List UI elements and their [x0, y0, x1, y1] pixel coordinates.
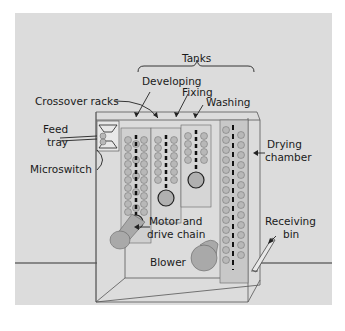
film-processor-diagram: Tanks Developing Fixing Washing Crossove… [0, 0, 345, 331]
label-receiving-2: bin [283, 228, 299, 240]
label-tanks: Tanks [181, 52, 211, 64]
label-drying-2: chamber [265, 151, 312, 163]
label-washing: Washing [206, 96, 251, 108]
label-feed-tray-2: tray [47, 136, 68, 148]
washing-tank [181, 125, 211, 207]
label-blower: Blower [150, 256, 187, 268]
label-drying-1: Drying [267, 138, 302, 150]
label-feed-tray-1: Feed [43, 123, 68, 135]
blower [191, 240, 218, 271]
label-microswitch: Microswitch [30, 163, 92, 175]
fixing-tank [151, 128, 181, 223]
label-crossover-racks: Crossover racks [35, 95, 119, 107]
label-receiving-1: Receiving [265, 215, 316, 227]
label-motor-2: drive chain [147, 228, 205, 240]
label-motor-1: Motor and [149, 215, 202, 227]
receiving-bin [251, 238, 275, 272]
feed-tray [97, 121, 119, 151]
drying-chamber [220, 120, 248, 283]
